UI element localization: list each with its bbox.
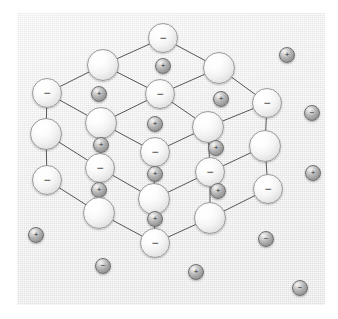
charge-label: − xyxy=(298,284,303,292)
charge-label: − xyxy=(101,262,106,270)
free-ions: +−++−−+− xyxy=(0,0,338,319)
free-ion-cation: − xyxy=(292,280,308,296)
free-ion-cation: − xyxy=(95,258,111,274)
free-ion-cation: + xyxy=(305,165,321,181)
charge-label: − xyxy=(310,109,315,117)
charge-label: + xyxy=(285,51,290,59)
charge-label: + xyxy=(34,231,39,239)
charge-label: + xyxy=(194,268,199,276)
figure-canvas: −+−−++−+++−−−+−−+++− +−++−−+− xyxy=(0,0,338,319)
free-ion-cation: + xyxy=(188,264,204,280)
free-ion-cation: + xyxy=(279,47,295,63)
charge-label: − xyxy=(264,235,269,243)
free-ion-cation: − xyxy=(304,105,320,121)
charge-label: + xyxy=(311,169,316,177)
free-ion-cation: + xyxy=(28,227,44,243)
free-ion-cation: − xyxy=(258,231,274,247)
